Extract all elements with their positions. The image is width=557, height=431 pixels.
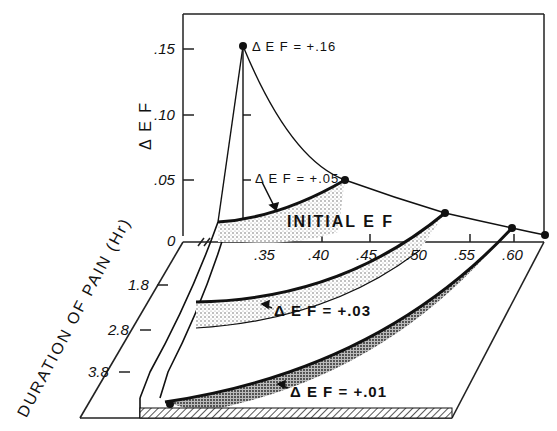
back-wall xyxy=(183,14,544,236)
x-axis-title: INITIAL E F xyxy=(287,213,394,231)
x-tick-50: .50 xyxy=(406,246,427,263)
chart-canvas xyxy=(0,0,557,431)
hatched-base xyxy=(140,408,452,418)
y-tick-0: 0 xyxy=(167,232,175,249)
annotation-band-05: Δ E F = +.05 xyxy=(255,171,339,186)
x-tick-45: .45 xyxy=(356,246,377,263)
x-tick-35: .35 xyxy=(254,246,275,263)
annotation-band-01: Δ E F = +.01 xyxy=(290,383,387,400)
y-tick-15: .15 xyxy=(154,40,175,57)
z-tick-18: 1.8 xyxy=(128,276,149,293)
y-tick-10: .10 xyxy=(154,106,175,123)
z-tick-38: 3.8 xyxy=(88,363,109,380)
y-tick-05: .05 xyxy=(154,171,175,188)
x-tick-60: .60 xyxy=(502,246,523,263)
annotation-peak: Δ E F = +.16 xyxy=(252,39,336,54)
z-tick-28: 2.8 xyxy=(108,321,129,338)
y-axis-title: Δ E F xyxy=(137,101,155,150)
annotation-band-03: Δ E F = +.03 xyxy=(274,302,371,319)
y-axis-ticks xyxy=(183,49,251,180)
x-tick-55: .55 xyxy=(454,246,475,263)
x-tick-40: .40 xyxy=(308,246,329,263)
